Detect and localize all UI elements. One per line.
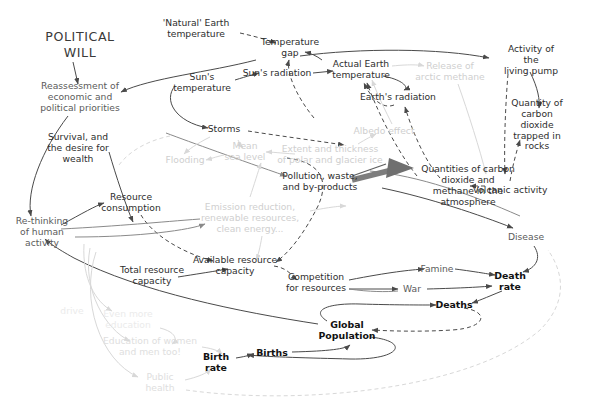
edge-war-to-death-rate xyxy=(427,286,492,289)
node-education-women-men: Education of women and men too! xyxy=(103,336,197,358)
node-suns-radiation: Sun's radiation xyxy=(243,68,312,79)
node-death-rate: Death rate xyxy=(494,270,526,292)
edge-disease-to-death-rate xyxy=(523,246,538,272)
node-pollution-waste: Pollution, waste, and by-products xyxy=(282,171,357,193)
edge-births-to-global-population xyxy=(292,345,350,352)
node-temperature-gap: Temperature gap xyxy=(261,37,319,59)
node-survival-desire: Survival, and the desire for wealth xyxy=(47,132,109,165)
node-global-population: Global Population xyxy=(318,319,375,341)
edge-pollution-to-sea xyxy=(250,163,261,197)
node-earths-radiation: Earth's radiation xyxy=(360,92,436,103)
node-war: War xyxy=(403,284,421,295)
node-albedo-effect: Albedo effect xyxy=(354,126,415,137)
node-storms: Storms xyxy=(208,124,240,135)
edge-flooding-loop xyxy=(119,136,170,165)
node-birth-rate: Birth rate xyxy=(203,351,229,373)
edge-living-pump-to-co2 xyxy=(505,74,508,174)
edge-storms-to-flooding xyxy=(184,137,210,154)
diagram-canvas: POLITICAL WILL Reassessment of economic … xyxy=(0,0,592,412)
node-co2-trapped-in-rocks: Quantity of carbon dioxide trapped in ro… xyxy=(510,98,565,152)
node-flooding: Flooding xyxy=(165,155,204,166)
node-public-health: Public health xyxy=(145,372,174,394)
edge-famine-to-death-rate xyxy=(455,269,495,275)
edge-birth-rate-to-births xyxy=(236,354,253,358)
edge-arctic-methane-to-co2 xyxy=(458,84,486,174)
node-reassessment: Reassessment of economic and political p… xyxy=(40,81,120,114)
node-deaths: Deaths xyxy=(435,299,472,310)
edge-death-rate-to-deaths xyxy=(472,291,502,303)
node-volcanic-activity: Volcanic activity xyxy=(473,185,548,196)
edge-emission-from-right xyxy=(310,206,346,211)
node-births: Births xyxy=(256,347,288,358)
node-activity-living-pump: Activity of the living pump xyxy=(501,44,562,77)
edge-actual-earth-temp-to-activity-living-pump xyxy=(300,50,489,58)
edge-rethinking-to-drive xyxy=(84,244,112,311)
edge-deaths-to-global-population xyxy=(372,308,481,331)
node-mean-sea-level: Mean sea level xyxy=(225,141,266,163)
node-emission-reduction: Emission reduction, renewable resources,… xyxy=(201,202,299,235)
node-disease: Disease xyxy=(508,232,544,243)
node-actual-earth-temp: Actual Earth temperature xyxy=(332,59,390,81)
node-polar-glacier-ice: Extent and thickness of polar and glacie… xyxy=(277,144,383,166)
node-political-will: POLITICAL WILL xyxy=(45,29,114,62)
edge-suns-radiation-to-actual-earth-temp xyxy=(313,71,333,73)
node-competition-for-resources: Competition for resources xyxy=(286,272,346,294)
edge-rethinking-flat xyxy=(61,219,200,229)
edge-rethinking-to-emission-reduction xyxy=(75,224,205,237)
node-natural-earth-temp: 'Natural' Earth temperature xyxy=(163,18,230,40)
node-famine: Famine xyxy=(420,264,453,275)
node-resource-consumption: Resource consumption xyxy=(101,192,161,214)
node-drive: drive xyxy=(60,306,83,317)
node-total-resource-capacity: Total resource capacity xyxy=(120,265,184,287)
edge-competition-to-famine xyxy=(349,269,424,280)
node-release-arctic-methane: Release of arctic methane xyxy=(415,61,485,83)
edge-mean-sea-level-to-flooding xyxy=(206,155,224,160)
node-even-more-education: Even more education xyxy=(103,309,152,331)
node-suns-temperature: Sun's temperature xyxy=(173,72,231,94)
node-available-resource-capacity: Available resource capacity xyxy=(193,255,277,277)
node-rethinking-human: Re-thinking of human activity xyxy=(16,216,68,249)
